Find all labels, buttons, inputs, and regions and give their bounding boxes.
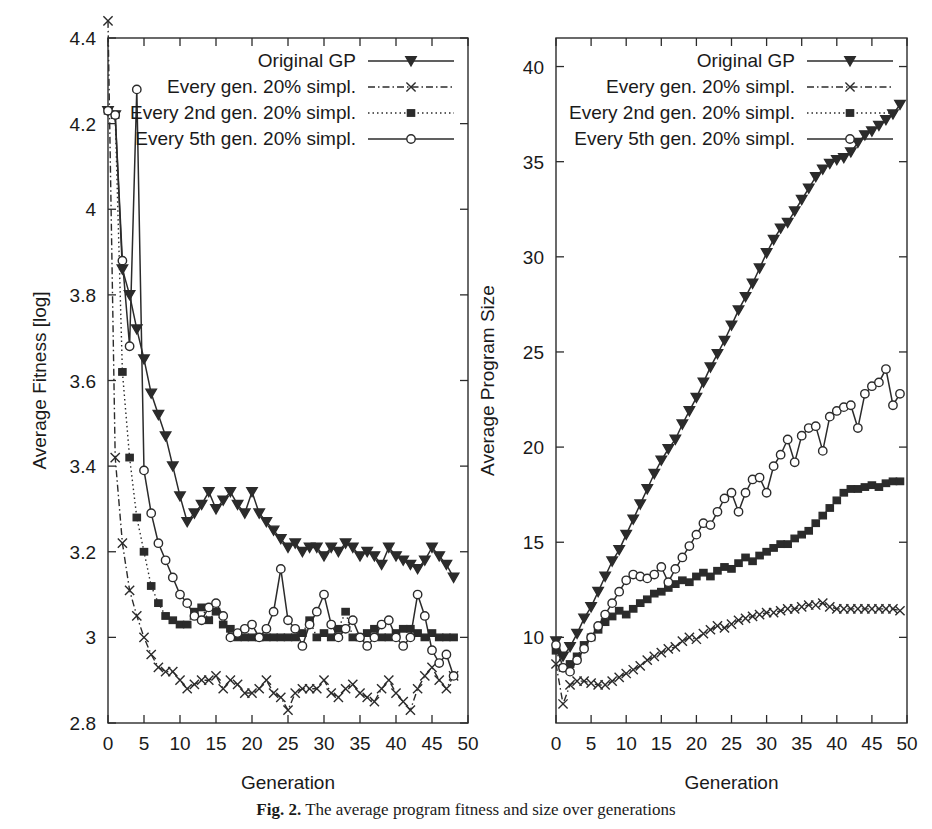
data-point (868, 482, 875, 488)
y-tick-label: 4 (85, 199, 96, 220)
data-point (896, 478, 903, 484)
x-tick-label: 45 (421, 733, 442, 754)
data-point (712, 350, 722, 359)
data-point (587, 633, 595, 641)
data-point (283, 543, 293, 552)
data-point (255, 633, 263, 641)
data-point (628, 515, 638, 524)
data-point (262, 676, 271, 685)
data-point (391, 688, 400, 697)
data-point (754, 264, 764, 273)
series-line-3 (108, 89, 454, 676)
x-tick-label: 25 (721, 733, 742, 754)
series-markers-3 (552, 365, 904, 676)
y-tick-label: 25 (523, 342, 544, 363)
data-point (664, 578, 672, 586)
y-axis-title: Average Program Size (477, 285, 498, 476)
data-point (691, 393, 701, 402)
data-point (861, 484, 868, 490)
data-point (219, 612, 227, 620)
data-point (334, 633, 342, 641)
data-point (741, 489, 749, 497)
data-point (262, 625, 270, 633)
legend-marker-2 (407, 110, 414, 116)
data-point (721, 564, 728, 570)
data-point (435, 659, 443, 667)
data-point (284, 634, 291, 640)
data-point (240, 509, 250, 518)
data-point (356, 633, 364, 641)
data-point (153, 411, 163, 420)
data-point (776, 606, 785, 615)
data-point (784, 541, 791, 547)
data-point (572, 629, 582, 638)
data-point (756, 552, 763, 558)
data-point (811, 173, 821, 182)
data-point (435, 676, 444, 685)
data-point (384, 676, 393, 685)
data-point (657, 563, 665, 571)
data-point (635, 500, 645, 509)
data-point (441, 560, 451, 569)
data-point (420, 671, 429, 680)
data-point (889, 478, 896, 484)
data-point (671, 642, 680, 651)
data-point (140, 466, 148, 474)
data-point (728, 566, 735, 572)
data-point (651, 590, 658, 596)
data-point (642, 485, 652, 494)
data-point (320, 630, 327, 636)
figure-container: 051015202530354045502.833.23.43.63.844.2… (0, 0, 932, 829)
data-point (671, 565, 679, 573)
data-point (270, 634, 277, 640)
data-point (700, 569, 707, 575)
data-point (601, 610, 609, 618)
data-point (183, 599, 191, 607)
y-tick-label: 30 (523, 247, 544, 268)
legend-label-3: Every 5th gen. 20% simpl. (135, 128, 356, 149)
data-point (133, 85, 141, 93)
data-point (607, 557, 617, 566)
data-point (277, 565, 285, 573)
data-point (341, 625, 349, 633)
data-point (770, 545, 777, 551)
data-point (370, 633, 378, 641)
data-point (798, 531, 805, 537)
x-axis-title: Generation (241, 772, 335, 793)
y-tick-label: 10 (523, 627, 544, 648)
data-point (565, 643, 575, 652)
data-point (622, 576, 630, 584)
data-point (769, 462, 777, 470)
data-point (776, 451, 784, 459)
data-point (176, 621, 183, 627)
data-point (615, 588, 623, 596)
data-point (593, 588, 603, 597)
data-point (684, 407, 694, 416)
data-point (768, 235, 778, 244)
x-tick-label: 15 (205, 733, 226, 754)
data-point (854, 486, 861, 492)
data-point (175, 492, 185, 501)
chart-average-fitness: 051015202530354045502.833.23.43.63.844.2… (0, 0, 500, 790)
data-point (277, 634, 284, 640)
data-point (679, 577, 686, 583)
data-point (160, 432, 170, 441)
data-point (616, 608, 623, 614)
data-point (248, 620, 256, 628)
data-point (742, 554, 749, 560)
data-point (111, 111, 119, 119)
data-point (169, 617, 176, 623)
data-point (637, 600, 644, 606)
data-point (707, 573, 714, 579)
x-tick-label: 20 (241, 733, 262, 754)
data-point (291, 625, 299, 633)
data-point (319, 676, 328, 685)
data-point (168, 462, 178, 471)
data-point (755, 610, 764, 619)
data-point (305, 620, 313, 628)
data-point (692, 530, 700, 538)
data-point (132, 611, 141, 620)
data-point (399, 642, 407, 650)
data-point (677, 420, 687, 429)
data-point (442, 684, 451, 693)
